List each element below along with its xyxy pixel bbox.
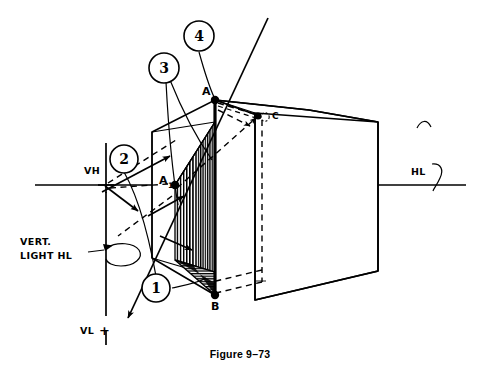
vh-label: VH [84,165,100,176]
callout-4[interactable]: 4 [184,21,214,51]
callout-1-label: 1 [151,280,161,296]
vertex-label-a: A [202,85,211,98]
hl-right-label: HL [411,166,426,177]
main-box-solid [215,100,378,300]
vl-plus-mark: + [99,323,110,338]
figure-caption: Figure 9–73 [210,348,271,360]
vert-light-note-line1: VERT. [20,236,51,247]
callout-4-label: 4 [194,28,204,44]
vertex-label-a1: A [159,174,168,187]
rotation-arrow-icon [103,244,140,266]
hl-arc-mark [417,121,431,128]
hl-tail-stroke [432,164,442,191]
callout-2[interactable]: 2 [110,145,138,173]
vertex-label-c: C [272,111,279,121]
vertical-measuring-line [98,143,114,345]
figure-9-73: 1 2 3 4 A A 1 B C VH VL + [0,0,495,376]
vert-light-note-line2: LIGHT HL [20,250,72,261]
perspective-shadow-diagram: 1 2 3 4 A A 1 B C VH VL + [0,0,495,376]
callout-1[interactable]: 1 [142,274,170,302]
vertex-label-a1-subscript: 1 [168,181,173,190]
vertex-label-b: B [211,300,219,313]
callout-2-label: 2 [119,151,129,167]
callout-3[interactable]: 3 [149,53,179,83]
vl-label: VL [80,325,94,336]
vert-light-leader [88,250,104,252]
callout-3-label: 3 [159,60,169,76]
